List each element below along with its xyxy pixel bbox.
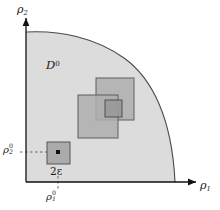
figure-canvas: ρ2 ρ1 D0 2ε ρ02 ρ01: [0, 0, 220, 210]
inner-small-square: [105, 100, 122, 117]
epsilon-box-label: 2ε: [50, 166, 62, 177]
tick-label-rho2-0: ρ02: [3, 143, 13, 155]
x-axis-arrowhead: [188, 179, 196, 186]
x-axis-label: ρ1: [200, 180, 211, 193]
tick-label-rho1-0: ρ01: [46, 190, 56, 202]
y-axis-arrowhead: [23, 18, 30, 26]
marked-point: [56, 150, 60, 154]
y-axis-label: ρ2: [17, 4, 28, 17]
diagram-svg: [0, 0, 220, 210]
region-label-D0: D0: [46, 60, 60, 72]
